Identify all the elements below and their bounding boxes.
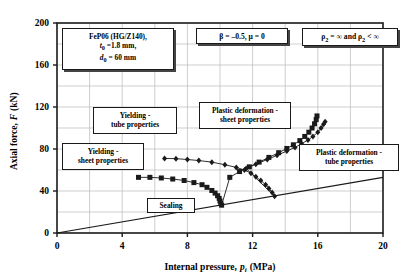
yield-sheet-line-1: Yielding - [65, 147, 141, 156]
annotation-rho: ρ2 = ∞ and ρ2 < ∞ [302, 28, 398, 46]
y-tick-label: 160 [35, 60, 50, 70]
chart-figure: 04812162004080120160200 Axial force,F(kN… [0, 0, 412, 278]
data-point-square [191, 180, 196, 185]
x-tick-label: 20 [378, 241, 388, 251]
x-tick-label: 8 [185, 241, 190, 251]
annotation-sealing: Sealing [147, 198, 195, 213]
rho-text: ρ2 = ∞ and ρ2 < ∞ [305, 32, 395, 43]
data-point-square [314, 113, 319, 118]
annotation-beta-mu: β = –0.5, μ = 0 [196, 28, 288, 44]
data-point-square [136, 175, 141, 180]
annotation-material-conditions: FeP06 (HG/Z140), t0 =1.8 mm, d0 = 60 mm [62, 28, 174, 70]
y-tick-label: 0 [44, 228, 49, 238]
plastic-sheet-line-2: sheet properties [202, 115, 288, 124]
yield-sheet-line-2: sheet properties [65, 156, 141, 165]
data-point-square [200, 182, 205, 187]
y-tick-label: 80 [40, 144, 50, 154]
data-point-square [159, 175, 164, 180]
material-line-1: FeP06 (HG/Z140), [65, 32, 171, 41]
x-tick-label: 4 [120, 241, 125, 251]
data-point-square [227, 175, 232, 180]
y-tick-label: 40 [40, 186, 50, 196]
y-tick-label: 200 [35, 18, 50, 28]
data-point-square [147, 175, 152, 180]
material-line-2: t0 =1.8 mm, [65, 41, 171, 53]
data-point-square [182, 178, 187, 183]
yield-tube-line-2: tube properties [96, 120, 174, 129]
x-tick-label: 12 [248, 241, 258, 251]
annotation-yielding-sheet: Yielding - sheet properties [62, 143, 144, 170]
data-point-square [170, 177, 175, 182]
plastic-sheet-line-1: Plastic deformation - [202, 106, 288, 115]
data-point-square [237, 169, 242, 174]
sealing-line-1: Sealing [150, 201, 192, 210]
x-tick-label: 16 [313, 241, 323, 251]
plastic-tube-line-2: tube properties [302, 157, 396, 166]
material-line-3: d0 = 60 mm [65, 53, 171, 65]
annotation-plastic-tube: Plastic deformation - tube properties [299, 144, 399, 171]
beta-text: β = –0.5, μ = 0 [199, 32, 285, 41]
annotation-plastic-sheet: Plastic deformation - sheet properties [199, 102, 291, 129]
annotation-yielding-tube: Yielding - tube properties [93, 107, 177, 134]
data-point-square [204, 185, 209, 190]
y-axis-title: Axial force,F(kN) [9, 92, 20, 170]
x-tick-label: 0 [55, 241, 60, 251]
y-tick-label: 120 [35, 102, 50, 112]
svg-text:Axial force,F(kN): Axial force,F(kN) [9, 92, 20, 170]
plastic-tube-line-1: Plastic deformation - [302, 148, 396, 157]
yield-tube-line-1: Yielding - [96, 111, 174, 120]
